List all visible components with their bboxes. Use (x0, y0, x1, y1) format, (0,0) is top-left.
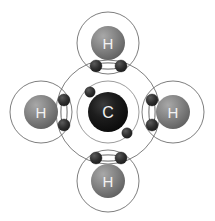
hydrogen-top-label: H (103, 35, 114, 52)
electron-carbon-inner-1 (85, 87, 95, 97)
electron-bond-left-2 (58, 119, 70, 131)
electron-bond-bottom-1 (90, 152, 102, 164)
electron-bond-bottom-2 (115, 152, 127, 164)
atom-hydrogen-bottom: H (91, 164, 125, 198)
methane-bohr-diagram: H H H H C (0, 0, 215, 221)
electron-bond-top-1 (90, 60, 102, 72)
atom-hydrogen-left: H (24, 95, 58, 129)
hydrogen-left-label: H (36, 104, 47, 121)
atom-carbon-center: C (88, 92, 128, 132)
hydrogen-bottom-label: H (103, 173, 114, 190)
electron-bond-top-2 (115, 60, 127, 72)
atom-hydrogen-top: H (91, 26, 125, 60)
carbon-label: C (102, 104, 114, 121)
electron-bond-left-1 (58, 94, 70, 106)
atom-hydrogen-right: H (156, 95, 190, 129)
electron-bond-right-2 (146, 119, 158, 131)
diagram-canvas: H H H H C (0, 0, 215, 221)
electron-bond-right-1 (146, 94, 158, 106)
hydrogen-right-label: H (168, 104, 179, 121)
electron-carbon-inner-2 (122, 128, 132, 138)
